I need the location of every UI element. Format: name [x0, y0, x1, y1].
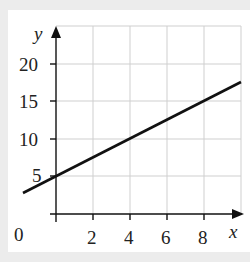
y-axis-arrow-icon — [51, 26, 61, 38]
origin-label: 0 — [14, 224, 24, 245]
x-tick-2: 2 — [87, 227, 97, 248]
grid — [56, 26, 241, 214]
y-tick-20: 20 — [19, 54, 38, 75]
x-axis-arrow-icon — [232, 209, 244, 219]
y-tick-15: 15 — [19, 91, 38, 112]
line-chart: y x 0 2 4 6 8 20 15 10 5 — [0, 0, 250, 262]
axes — [50, 34, 234, 222]
x-axis-label: x — [228, 221, 238, 242]
y-axis-label: y — [32, 23, 43, 44]
x-tick-8: 8 — [198, 227, 208, 248]
y-tick-5: 5 — [32, 165, 42, 186]
x-tick-4: 4 — [124, 227, 134, 248]
y-tick-10: 10 — [19, 129, 38, 150]
x-tick-6: 6 — [161, 227, 171, 248]
